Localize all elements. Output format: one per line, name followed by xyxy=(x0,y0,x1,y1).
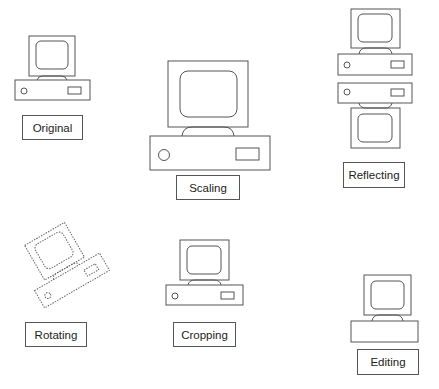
computer-icon-rotated xyxy=(13,215,110,308)
screen-icon xyxy=(358,114,392,142)
computer-icon-reflected-bottom xyxy=(338,83,412,148)
monitor-icon xyxy=(25,222,85,280)
cpu-case xyxy=(338,54,412,75)
label-scaling: Scaling xyxy=(176,175,240,200)
label-reflecting: Reflecting xyxy=(343,162,405,188)
drive-slot-icon xyxy=(236,148,259,160)
monitor-stand xyxy=(37,76,67,80)
label-editing: Editing xyxy=(357,349,419,375)
screen-icon xyxy=(180,71,237,117)
screen-icon xyxy=(187,246,221,274)
power-button-icon xyxy=(159,150,170,161)
computer-icon-original xyxy=(15,36,90,100)
monitor-stand xyxy=(52,261,80,279)
label-cropping: Cropping xyxy=(173,322,236,347)
power-button-icon xyxy=(21,88,27,94)
label-rotating: Rotating xyxy=(25,322,87,347)
computer-icon-cropped xyxy=(166,240,243,305)
screen-icon xyxy=(36,41,68,69)
cpu-case xyxy=(338,83,412,103)
drive-slot-icon xyxy=(391,89,404,96)
monitor-stand xyxy=(359,48,392,54)
power-button-icon xyxy=(344,89,350,95)
cpu-case xyxy=(351,321,418,342)
computer-icon-reflected-top xyxy=(338,9,412,75)
drive-slot-icon xyxy=(391,61,404,68)
computer-icon-edited xyxy=(351,275,418,342)
drive-slot-icon xyxy=(221,292,234,299)
drive-slot-icon xyxy=(68,87,81,94)
drive-slot-icon xyxy=(84,264,99,277)
monitor-stand xyxy=(188,280,221,285)
cpu-case xyxy=(150,136,270,170)
power-button-icon xyxy=(172,293,178,299)
cpu-case xyxy=(35,253,110,308)
monitor-stand xyxy=(182,127,234,136)
monitor-stand xyxy=(359,103,392,108)
power-button-icon xyxy=(344,62,350,68)
monitor-stand xyxy=(372,315,403,321)
power-button-icon xyxy=(44,291,52,299)
screen-icon xyxy=(371,281,404,309)
label-original: Original xyxy=(22,115,83,140)
cpu-case xyxy=(15,80,90,100)
screen-icon xyxy=(358,14,392,42)
computer-icon-scaled xyxy=(150,61,270,170)
